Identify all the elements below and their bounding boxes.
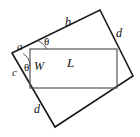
geometry-figure: b d d a c L W θ θ	[0, 0, 140, 137]
label-width-W: W	[34, 60, 44, 72]
label-side-d-bottom: d	[34, 103, 40, 115]
label-side-b: b	[65, 16, 71, 28]
label-theta-top: θ	[44, 36, 49, 47]
label-side-c: c	[12, 67, 17, 78]
label-length-L: L	[67, 56, 74, 69]
label-side-a: a	[17, 41, 23, 52]
label-side-d-top: d	[116, 27, 122, 39]
label-theta-left: θ	[24, 62, 29, 73]
